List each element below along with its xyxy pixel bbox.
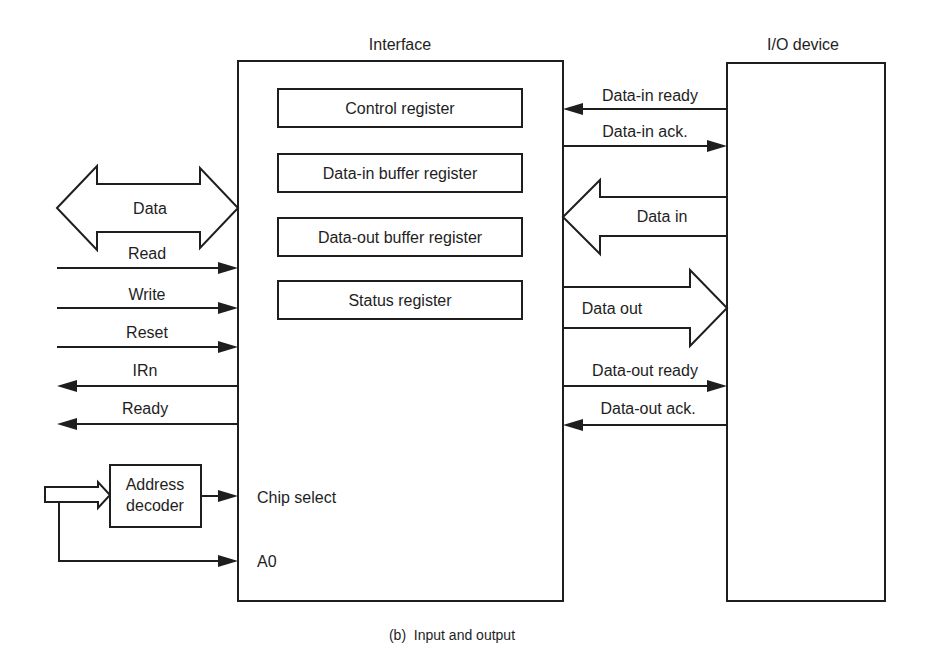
interface-title: Interface xyxy=(369,36,431,53)
register-status: Status register xyxy=(278,281,522,319)
data-bus-bidirectional-arrow: Data xyxy=(57,166,238,250)
data-in-bus-label: Data in xyxy=(637,208,688,225)
address-decoder-block: Address decoder xyxy=(110,465,201,527)
arrowhead-icon xyxy=(563,103,583,115)
register-label: Data-out buffer register xyxy=(318,229,483,246)
signal-data-out-ack: Data-out ack. xyxy=(563,400,727,431)
arrowhead-icon xyxy=(218,341,238,353)
signal-irn: IRn xyxy=(57,362,238,392)
arrowhead-icon xyxy=(563,419,583,431)
signal-label: Ready xyxy=(122,400,168,417)
register-label: Data-in buffer register xyxy=(323,165,478,182)
signal-label: Data-in ready xyxy=(602,87,698,104)
io-device-block: I/O device xyxy=(727,36,885,601)
signal-data-in-ready: Data-in ready xyxy=(563,87,727,115)
register-control: Control register xyxy=(278,89,522,127)
address-bus-input-arrow xyxy=(45,482,110,508)
chip-select-line xyxy=(201,490,238,502)
address-decoder-label-line1: Address xyxy=(126,476,185,493)
chip-select-label: Chip select xyxy=(257,489,337,506)
arrowhead-icon xyxy=(707,140,727,152)
signal-reset: Reset xyxy=(57,324,238,353)
data-out-bus-arrow: Data out xyxy=(563,270,727,346)
signal-label: Data-out ack. xyxy=(600,400,695,417)
signal-read: Read xyxy=(57,245,238,274)
a0-label: A0 xyxy=(257,553,277,570)
register-data-out-buffer: Data-out buffer register xyxy=(278,218,522,256)
arrowhead-icon xyxy=(57,418,77,430)
data-out-bus-label: Data out xyxy=(582,300,643,317)
signal-label: Write xyxy=(128,286,165,303)
signal-write: Write xyxy=(57,286,238,314)
arrowhead-icon xyxy=(707,380,727,392)
address-decoder-label-line2: decoder xyxy=(126,497,184,514)
arrowhead-icon xyxy=(218,490,238,502)
interface-block: Interface Control register Data-in buffe… xyxy=(238,36,563,601)
arrowhead-icon xyxy=(218,302,238,314)
signal-label: Read xyxy=(128,245,166,262)
register-data-in-buffer: Data-in buffer register xyxy=(278,154,522,192)
data-bus-label: Data xyxy=(133,200,167,217)
arrowhead-icon xyxy=(57,380,77,392)
arrowhead-icon xyxy=(218,262,238,274)
arrowhead-icon xyxy=(218,555,238,567)
signal-label: Data-out ready xyxy=(592,362,698,379)
interface-io-diagram: Interface Control register Data-in buffe… xyxy=(0,0,925,657)
signal-label: Data-in ack. xyxy=(602,123,687,140)
signal-label: Reset xyxy=(126,324,168,341)
signal-label: IRn xyxy=(133,362,158,379)
signal-data-in-ack: Data-in ack. xyxy=(563,123,727,152)
register-label: Control register xyxy=(345,100,455,117)
io-device-title: I/O device xyxy=(767,36,839,53)
register-label: Status register xyxy=(348,292,452,309)
figure-caption: (b) Input and output xyxy=(389,627,515,643)
signal-ready: Ready xyxy=(57,400,238,430)
signal-data-out-ready: Data-out ready xyxy=(563,362,727,392)
data-in-bus-arrow: Data in xyxy=(563,180,727,254)
